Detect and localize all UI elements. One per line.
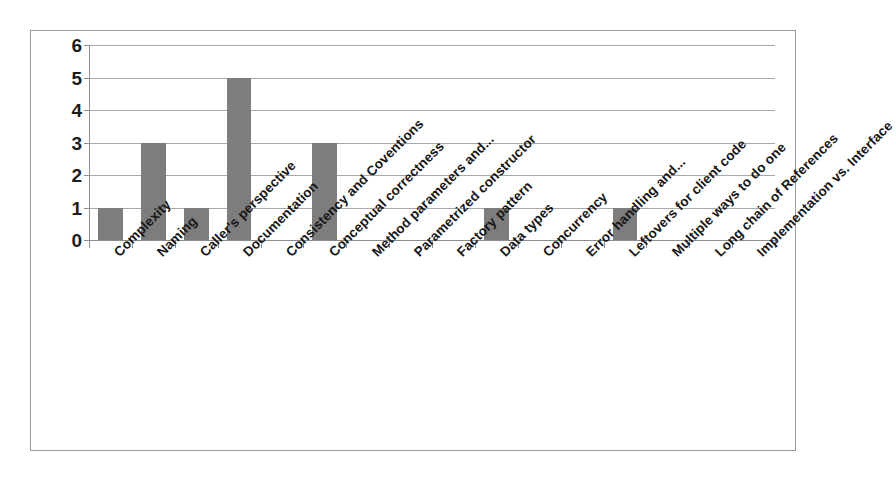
x-axis-tick-mark: [89, 241, 90, 248]
y-axis-tick-label: 6: [56, 36, 82, 55]
y-axis-tick-labels: 0123456: [52, 45, 82, 240]
y-axis-tick-label: 5: [56, 68, 82, 87]
bar: [98, 208, 123, 241]
y-axis-tick-label: 1: [56, 198, 82, 217]
y-axis-tick-label: 3: [56, 133, 82, 152]
y-axis-tick-label: 4: [56, 101, 82, 120]
x-axis-category-labels: ComplexityNamingCaller's perspectiveDocu…: [89, 249, 789, 449]
y-axis-tick-label: 0: [56, 231, 82, 250]
y-axis-tick-label: 2: [56, 166, 82, 185]
